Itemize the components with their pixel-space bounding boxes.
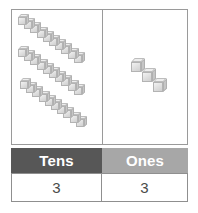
cube-face-side (63, 39, 66, 50)
cube-face-front (142, 72, 152, 82)
tens-blocks-panel (12, 10, 102, 144)
cube-face-side (69, 75, 72, 86)
cube-face-front (131, 62, 141, 72)
ones-blocks-panel (103, 10, 187, 144)
base-ten-blocks-box (11, 9, 188, 145)
rod-cube-icon (18, 46, 29, 57)
cube-face-side (69, 43, 72, 54)
value-cell-ones: 3 (102, 173, 188, 202)
cube-face-side (76, 48, 79, 59)
cube-face-side (38, 54, 41, 65)
header-cell-ones: Ones (102, 148, 188, 173)
cube-face-side (78, 112, 81, 123)
cube-face-side (71, 107, 74, 118)
cube-face-side (65, 103, 68, 114)
rod-cube-icon (18, 14, 29, 25)
table-header-row: Tens Ones (11, 148, 188, 173)
cube-face-front (153, 82, 163, 92)
cube-face-side (45, 59, 48, 70)
cube-face-side (53, 95, 56, 106)
rod-cube-icon (20, 78, 31, 89)
table-value-row: 3 3 (11, 173, 188, 202)
place-value-diagram: Tens Ones 3 3 (0, 0, 198, 213)
cube-face-side (63, 71, 66, 82)
cube-face-side (57, 67, 60, 78)
cube-face-front (20, 81, 28, 89)
cube-face-side (45, 27, 48, 38)
unit-cube-icon (153, 78, 167, 92)
cube-face-side (34, 82, 37, 93)
cube-face-side (51, 31, 54, 42)
value-cell-tens: 3 (11, 173, 102, 202)
cube-face-side (82, 52, 85, 63)
cube-face-side (26, 46, 29, 57)
cube-face-side (57, 35, 60, 46)
cube-face-front (18, 17, 26, 25)
cube-face-side (47, 91, 50, 102)
cube-face-front (18, 49, 26, 57)
cube-face-side (76, 80, 79, 91)
cube-face-side (163, 78, 167, 92)
cube-face-side (38, 22, 41, 33)
cube-face-side (26, 14, 29, 25)
cube-face-side (40, 86, 43, 97)
place-value-table: Tens Ones 3 3 (11, 148, 188, 202)
cube-face-side (32, 50, 35, 61)
cube-face-side (84, 116, 87, 127)
cube-face-side (28, 78, 31, 89)
cube-face-side (59, 99, 62, 110)
cube-face-side (82, 84, 85, 95)
cube-face-side (51, 63, 54, 74)
cube-face-side (32, 18, 35, 29)
header-cell-tens: Tens (11, 148, 102, 173)
